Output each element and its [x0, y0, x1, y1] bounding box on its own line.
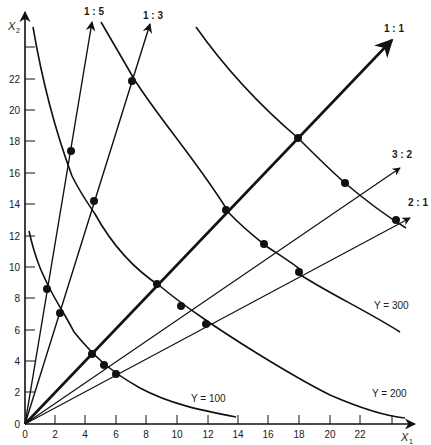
- point: [112, 370, 120, 378]
- x-tick-label: 0: [22, 429, 28, 440]
- y-tick-label: 0: [14, 419, 20, 430]
- x-tick-label: 10: [171, 429, 183, 440]
- point: [128, 77, 136, 85]
- x-tick-labels: 0 2 4 6 8 10 12 14 16 18 20 22: [22, 429, 366, 440]
- y-tick-label: 2: [14, 387, 20, 398]
- y-tick-label: 16: [9, 168, 21, 179]
- point: [260, 240, 268, 248]
- curve-label-y-300: Y = 300: [374, 300, 409, 311]
- x-axis-label: X: [400, 431, 409, 443]
- y-tick-label: 18: [9, 136, 21, 147]
- y-tick-label: 20: [9, 105, 21, 116]
- x-tick-label: 8: [143, 429, 149, 440]
- point: [341, 179, 349, 187]
- ray-labels: 1 : 5 1 : 3 1 : 1 3 : 2 2 : 1: [84, 6, 428, 208]
- point: [294, 134, 302, 142]
- point: [153, 280, 161, 288]
- y-tick-label: 8: [14, 293, 20, 304]
- x-tick-label: 2: [52, 429, 58, 440]
- x-tick-label: 22: [354, 429, 366, 440]
- y-tick-label: 22: [9, 74, 21, 85]
- ray-label-1-3: 1 : 3: [143, 10, 163, 21]
- point: [202, 320, 210, 328]
- point: [295, 268, 303, 276]
- point: [56, 309, 64, 317]
- y-axis-label: X: [7, 20, 16, 32]
- point: [177, 302, 185, 310]
- rays: [25, 22, 410, 424]
- point: [100, 361, 108, 369]
- y-tick-labels: 0 2 4 6 8 10 12 14 16 18 20 22: [9, 74, 21, 430]
- ray-label-1-1: 1 : 1: [384, 23, 404, 34]
- x-tick-label: 4: [82, 429, 88, 440]
- curve-y-300: [101, 22, 400, 332]
- y-axis-subscript: 2: [16, 27, 20, 34]
- ray-label-3-2: 3 : 2: [392, 149, 412, 160]
- isoquants: [29, 22, 406, 418]
- y-axis-title: X 2: [7, 20, 20, 34]
- x-tick-label: 16: [262, 429, 274, 440]
- x-tick-label: 14: [232, 429, 244, 440]
- ray-3-2: [25, 168, 400, 424]
- intersection-points: [43, 77, 400, 378]
- x-tick-label: 6: [113, 429, 119, 440]
- point: [90, 197, 98, 205]
- y-ticks: [25, 47, 35, 392]
- ray-label-2-1: 2 : 1: [408, 197, 428, 208]
- point: [222, 206, 230, 214]
- x-axis-title: X 1: [400, 431, 413, 445]
- curve-labels: Y = 100 Y = 200 Y = 300: [191, 300, 409, 404]
- y-tick-label: 14: [9, 199, 21, 210]
- ray-label-1-5: 1 : 5: [84, 6, 104, 17]
- y-tick-label: 4: [14, 356, 20, 367]
- y-tick-label: 12: [9, 231, 21, 242]
- y-tick-label: 6: [14, 325, 20, 336]
- x-ticks: [55, 415, 392, 424]
- x-tick-label: 20: [324, 429, 336, 440]
- point: [88, 350, 96, 358]
- point: [43, 285, 51, 293]
- x-tick-label: 18: [293, 429, 305, 440]
- point: [392, 216, 400, 224]
- isoquant-diagram: 0 2 4 6 8 10 12 14 16 18 20 22 0 2 4 6 8…: [0, 0, 431, 445]
- x-axis-subscript: 1: [409, 438, 413, 445]
- curve-label-y-200: Y = 200: [372, 388, 407, 399]
- y-tick-label: 10: [9, 262, 21, 273]
- x-tick-label: 12: [202, 429, 214, 440]
- curve-label-y-100: Y = 100: [191, 393, 226, 404]
- point: [67, 147, 75, 155]
